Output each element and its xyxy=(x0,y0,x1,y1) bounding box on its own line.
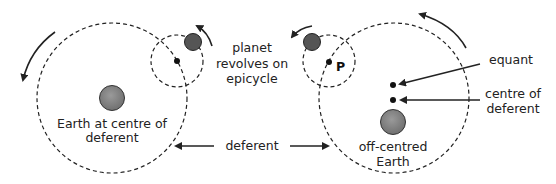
epicycle-centre-dot-right xyxy=(326,59,332,65)
planet-icon-left xyxy=(185,34,202,51)
earth-label-left-line2: deferent xyxy=(85,130,138,145)
left-panel: Earth at centre of deferent xyxy=(23,23,212,173)
deferent-rotation-arrow-left xyxy=(23,32,55,80)
point-p-label: P xyxy=(336,59,345,74)
epicycle-diagram: Earth at centre of deferent planet revol… xyxy=(0,0,556,184)
equant-dot xyxy=(390,82,396,88)
center-labels: planet revolves on epicycle deferent xyxy=(176,40,328,153)
planet-icon-right xyxy=(304,34,321,51)
epicycle-label-line1: planet xyxy=(232,40,272,55)
epicycle-centre-dot-left xyxy=(174,58,180,64)
equant-label: equant xyxy=(489,52,533,67)
earth-icon-left xyxy=(100,86,125,111)
earth-icon-right xyxy=(381,110,406,135)
earth-label-left-line1: Earth at centre of xyxy=(57,116,168,131)
epicycle-label-line3: epicycle xyxy=(226,71,278,86)
centre-label-line1: centre of xyxy=(485,86,542,101)
epicycle-label-line2: revolves on xyxy=(216,56,288,71)
earth-label-right-line2: Earth xyxy=(376,154,410,169)
equant-pointer-arrow xyxy=(400,64,480,84)
right-panel: P equant centre of deferent off-centred … xyxy=(292,14,542,173)
centre-of-deferent-dot xyxy=(390,97,396,103)
centre-label-line2: deferent xyxy=(486,101,539,116)
earth-label-right-line1: off-centred xyxy=(359,139,428,154)
deferent-label: deferent xyxy=(225,138,278,153)
